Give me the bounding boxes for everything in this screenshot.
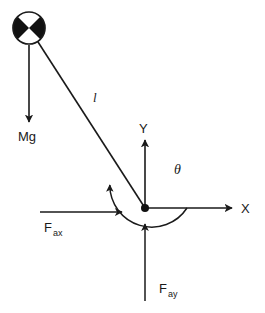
x-axis-label: X [241,201,250,216]
pendulum-diagram: Mg l θ Y X F ax F ay [0,0,265,313]
angle-label-theta: θ [174,162,181,177]
origin-point [141,204,149,212]
weight-label-mg: Mg [18,129,36,144]
force-label-fay: F ay [159,281,178,299]
y-axis-label: Y [139,121,148,136]
force-label-fax-subscript: ax [53,228,63,238]
pendulum-bob [13,12,45,44]
force-label-fay-subscript: ay [168,289,178,299]
string-length-label: l [93,90,97,105]
force-label-fax: F ax [44,220,63,238]
pendulum-string [29,28,145,208]
free-body-diagram-canvas: Mg l θ Y X F ax F ay [0,0,265,313]
force-label-fax-base: F [44,220,52,235]
force-label-fay-base: F [159,281,167,296]
